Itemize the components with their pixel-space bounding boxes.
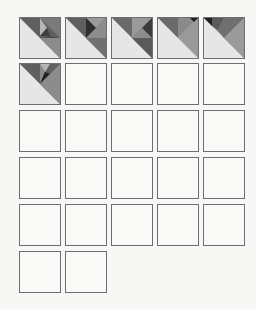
- tile-12[interactable]: [65, 110, 107, 152]
- tile-15[interactable]: [203, 110, 245, 152]
- tile-11[interactable]: [19, 110, 61, 152]
- triangle-pattern-icon: [158, 18, 198, 58]
- tile-5[interactable]: [203, 17, 245, 59]
- tile-17[interactable]: [65, 157, 107, 199]
- tile-14[interactable]: [157, 110, 199, 152]
- triangle-pattern-icon: [204, 18, 244, 58]
- tile-19[interactable]: [157, 157, 199, 199]
- tile-24[interactable]: [157, 204, 199, 246]
- tile-1[interactable]: [19, 17, 61, 59]
- triangle-pattern-icon: [66, 18, 106, 58]
- tile-23[interactable]: [111, 204, 153, 246]
- triangle-pattern-icon: [112, 18, 152, 58]
- tile-6[interactable]: [19, 63, 61, 105]
- tile-9[interactable]: [157, 63, 199, 105]
- tile-25[interactable]: [203, 204, 245, 246]
- tile-board: [0, 0, 256, 309]
- tile-10[interactable]: [203, 63, 245, 105]
- tile-27[interactable]: [65, 251, 107, 293]
- tile-22[interactable]: [65, 204, 107, 246]
- tile-8[interactable]: [111, 63, 153, 105]
- tile-4[interactable]: [157, 17, 199, 59]
- tile-20[interactable]: [203, 157, 245, 199]
- triangle-pattern-icon: [20, 64, 60, 104]
- tile-16[interactable]: [19, 157, 61, 199]
- tile-18[interactable]: [111, 157, 153, 199]
- triangle-pattern-icon: [20, 18, 60, 58]
- tile-3[interactable]: [111, 17, 153, 59]
- tile-21[interactable]: [19, 204, 61, 246]
- tile-7[interactable]: [65, 63, 107, 105]
- tile-13[interactable]: [111, 110, 153, 152]
- tile-26[interactable]: [19, 251, 61, 293]
- tile-2[interactable]: [65, 17, 107, 59]
